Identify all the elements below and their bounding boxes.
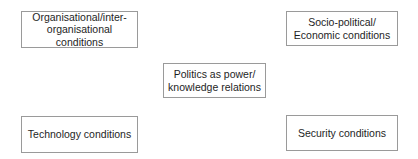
center-node-label: Politics as power/ knowledge relations <box>168 68 261 93</box>
node-label: Security conditions <box>298 127 386 140</box>
node-organisational-conditions: Organisational/inter- organisational con… <box>21 11 138 48</box>
node-label: Socio-political/ Economic conditions <box>294 16 390 41</box>
node-label: Technology conditions <box>28 128 131 141</box>
node-politics-power-knowledge: Politics as power/ knowledge relations <box>163 63 266 98</box>
diagram-canvas: Organisational/inter- organisational con… <box>0 0 418 159</box>
node-label: Organisational/inter- organisational con… <box>22 11 137 49</box>
node-socio-political-economic-conditions: Socio-political/ Economic conditions <box>286 11 398 46</box>
node-security-conditions: Security conditions <box>286 115 398 151</box>
node-technology-conditions: Technology conditions <box>21 116 138 153</box>
